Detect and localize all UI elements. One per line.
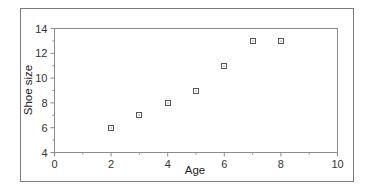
y-tick-label: 14 <box>35 23 47 35</box>
x-tick-label: 0 <box>51 158 57 170</box>
y-axis-title: Shoe size <box>22 65 34 116</box>
x-axis-title: Age <box>185 164 205 176</box>
x-tick-label: 8 <box>278 158 284 170</box>
data-point-marker <box>251 39 256 44</box>
data-point-marker <box>279 39 284 44</box>
x-tick-label: 4 <box>165 158 171 170</box>
y-tick-label: 10 <box>35 72 47 84</box>
y-tick-label: 8 <box>41 97 47 109</box>
data-point-marker <box>166 101 171 106</box>
data-point-marker <box>222 64 227 69</box>
y-tick-label: 12 <box>35 47 47 59</box>
x-tick-label: 2 <box>108 158 114 170</box>
scatter-figure: 468101214 0246810 Age Shoe size <box>0 0 370 188</box>
x-tick-label: 10 <box>331 158 343 170</box>
data-point-marker <box>194 89 199 94</box>
data-point-marker <box>109 126 114 131</box>
data-point-marker <box>137 113 142 118</box>
x-tick-label: 6 <box>221 158 227 170</box>
y-tick-label: 6 <box>41 122 47 134</box>
y-tick-label: 4 <box>41 147 47 159</box>
